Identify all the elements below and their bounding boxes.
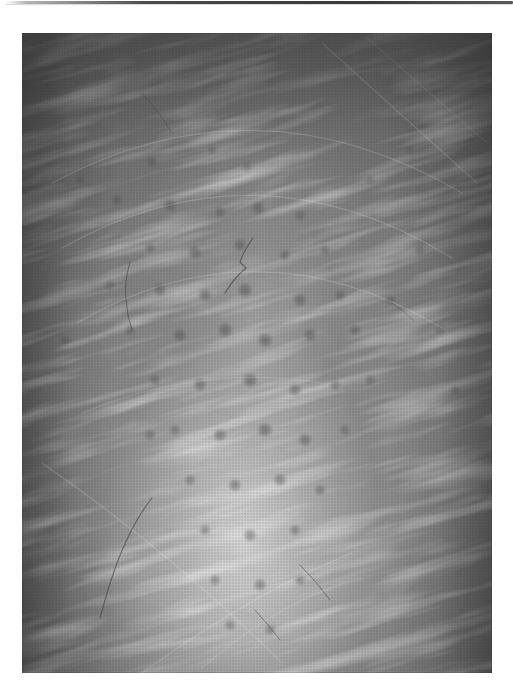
page-top-rule — [6, 1, 513, 4]
photo-vignette — [22, 33, 492, 673]
skin-photo — [22, 33, 492, 673]
scanned-page: { "page": { "background_color": "#ffffff… — [0, 0, 513, 700]
